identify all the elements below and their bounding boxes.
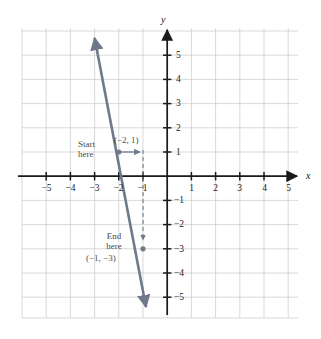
- figure-background: [0, 0, 321, 339]
- y-tick-label--1: −1: [174, 196, 184, 206]
- x-tick-label-5: 5: [284, 184, 293, 194]
- y-tick-label-5: 5: [176, 51, 181, 61]
- x-tick-label-2: 2: [211, 184, 220, 194]
- y-tick-label--2: −2: [174, 220, 184, 230]
- y-tick-label--5: −5: [174, 293, 184, 303]
- end-here-label: End here: [92, 231, 136, 252]
- y-tick-label--4: −4: [174, 269, 184, 279]
- end-coordinate-label: (−1, −3): [86, 254, 116, 263]
- y-tick-label-4: 4: [176, 75, 181, 85]
- x-axis-label: x: [306, 171, 310, 181]
- end-point-marker: [140, 246, 145, 251]
- start-here-line1: Start: [78, 139, 95, 149]
- y-axis-label: y: [161, 15, 165, 25]
- x-tick-label-4: 4: [260, 184, 269, 194]
- start-here-label: Start here: [78, 139, 95, 160]
- y-tick-label-2: 2: [176, 124, 181, 134]
- x-tick-label--3: −3: [88, 184, 101, 194]
- coordinate-plane-figure: −5 −4 −3 −2 −1 1 2 3 4 5 5 4 3 2 1 −1 −2…: [0, 0, 321, 339]
- graph-canvas: [0, 0, 321, 339]
- y-tick-label-3: 3: [176, 99, 181, 109]
- end-here-line2: here: [106, 241, 122, 251]
- x-tick-label--4: −4: [64, 184, 77, 194]
- start-coordinate-label: (−2, 1): [114, 136, 139, 145]
- x-tick-label-1: 1: [187, 184, 196, 194]
- x-tick-label-3: 3: [235, 184, 244, 194]
- x-tick-label--2: −2: [112, 184, 125, 194]
- x-tick-label--5: −5: [40, 184, 53, 194]
- x-tick-label--1: −1: [136, 184, 149, 194]
- y-tick-label--3: −3: [174, 245, 184, 255]
- y-tick-label-1: 1: [176, 148, 181, 158]
- end-here-line1: End: [107, 231, 122, 241]
- start-here-line2: here: [78, 149, 94, 159]
- start-point-marker: [116, 149, 121, 154]
